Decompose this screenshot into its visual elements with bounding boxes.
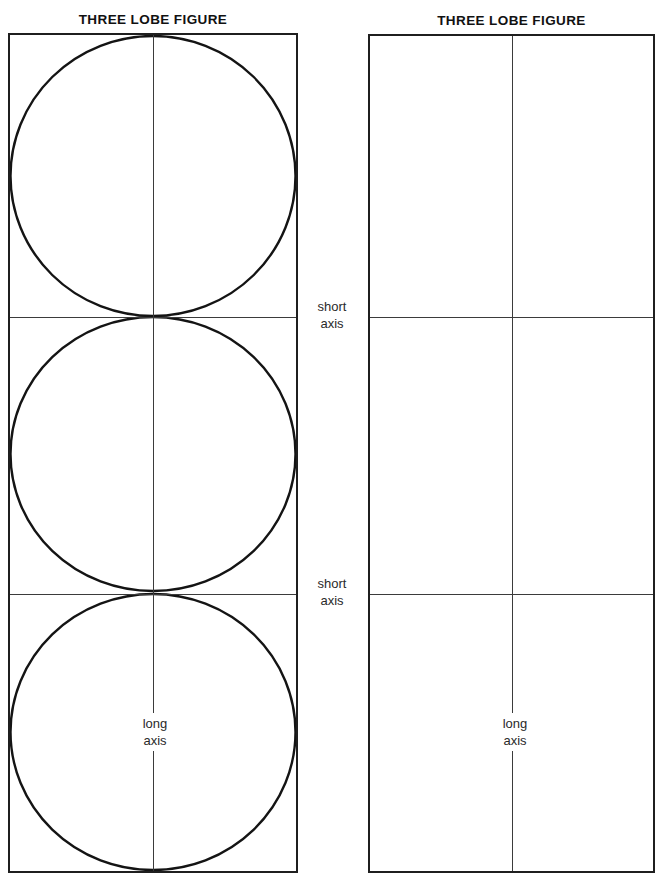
short-axis-label-upper-line1: short (303, 298, 361, 315)
short-axis-label-lower-line1: short (303, 575, 361, 592)
long-axis-label-left-line2: axis (124, 732, 186, 749)
short-axis-label-lower: short axis (303, 575, 361, 609)
figure-title-left: THREE LOBE FIGURE (8, 13, 298, 27)
long-axis-label-right-line2: axis (484, 732, 546, 749)
short-axis-label-upper-line2: axis (303, 315, 361, 332)
long-axis-label-right: long axis (478, 713, 552, 751)
figure-title-right: THREE LOBE FIGURE (368, 14, 655, 28)
long-axis-label-right-line1: long (484, 715, 546, 732)
long-axis-label-left-line1: long (124, 715, 186, 732)
long-axis-label-left: long axis (118, 713, 192, 751)
short-axis-label-lower-line2: axis (303, 592, 361, 609)
short-axis-label-upper: short axis (303, 298, 361, 332)
diagram-canvas: THREE LOBE FIGURE THREE LOBE FIGURE shor… (0, 0, 671, 881)
